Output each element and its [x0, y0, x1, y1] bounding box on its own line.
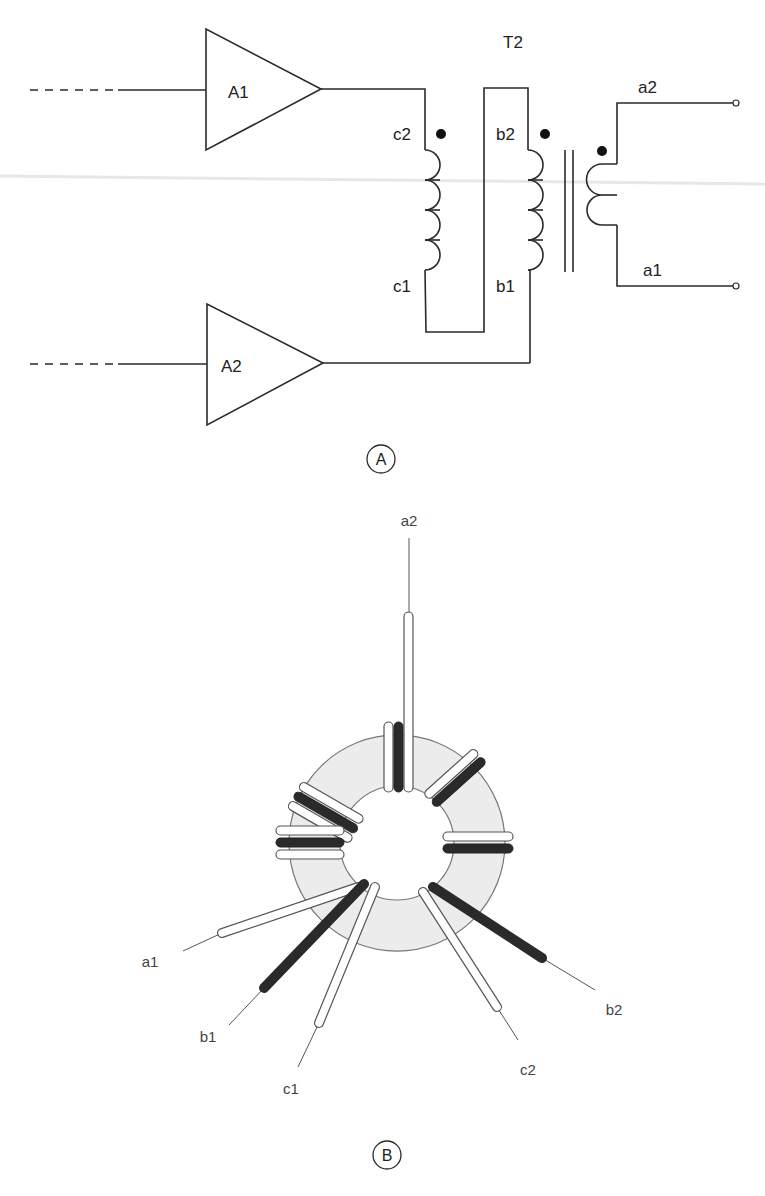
- lead-label-c2: c2: [520, 1061, 536, 1078]
- winding-top-white: [384, 722, 393, 792]
- c2-lead-line: [497, 1007, 518, 1040]
- b1-wire: [528, 270, 530, 363]
- label-b2: b2: [496, 125, 515, 144]
- label-b1: b1: [496, 277, 515, 296]
- figure-a-schematic: A1 c2 c1 b2 b1 T2 a2: [30, 29, 739, 473]
- terminal-a2: [733, 100, 739, 106]
- figure-b-toroid: a2 a1: [142, 512, 623, 1169]
- lead-label-c1: c1: [283, 1080, 299, 1097]
- label-c2: c2: [393, 125, 411, 144]
- scan-artifact-line: [0, 176, 765, 184]
- winding-top-black: [394, 722, 403, 792]
- terminal-a1: [733, 283, 739, 289]
- lead-label-a1: a1: [142, 953, 159, 970]
- a2-wire: [617, 103, 733, 164]
- a1-lead-line: [183, 933, 222, 951]
- panel-b-label: B: [382, 1147, 393, 1164]
- winding-left: [276, 826, 344, 859]
- b1-lead-line: [229, 988, 264, 1025]
- amplifier-a1-label: A1: [228, 83, 249, 102]
- lead-label-b1: b1: [200, 1028, 217, 1045]
- polarity-dot-b2: [540, 129, 550, 139]
- amplifier-a2-label: A2: [221, 357, 242, 376]
- panel-a-label: A: [376, 451, 387, 468]
- transformer-label: T2: [503, 33, 523, 52]
- label-a1: a1: [643, 261, 662, 280]
- a2-rod: [404, 612, 413, 792]
- b2-lead-line: [542, 958, 595, 990]
- label-a2: a2: [638, 78, 657, 97]
- polarity-dot-a2: [597, 146, 607, 156]
- polarity-dot-c2: [436, 129, 446, 139]
- lead-label-a2: a2: [401, 512, 418, 529]
- a1-wire: [617, 225, 733, 286]
- diagram-canvas: A1 c2 c1 b2 b1 T2 a2: [0, 0, 765, 1196]
- lead-label-b2: b2: [606, 1001, 623, 1018]
- amplifier-a1: [206, 29, 321, 150]
- label-c1: c1: [393, 277, 411, 296]
- c1-lead-line: [298, 1023, 319, 1067]
